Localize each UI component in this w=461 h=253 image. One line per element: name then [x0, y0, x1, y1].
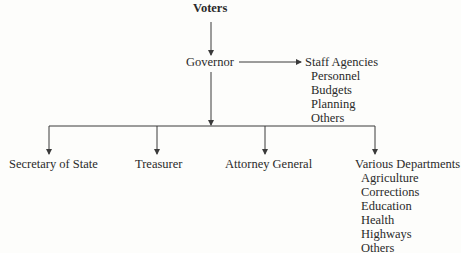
node-various-departments: Various Departments Agriculture Correcti…: [355, 157, 460, 253]
department-item: Agriculture: [355, 171, 460, 185]
attorney-general-label: Attorney General: [225, 157, 312, 171]
department-item: Education: [355, 199, 460, 213]
staff-agencies-label: Staff Agencies: [305, 55, 378, 69]
node-attorney-general: Attorney General: [225, 157, 312, 171]
node-secretary-of-state: Secretary of State: [9, 157, 98, 171]
staff-item: Personnel: [305, 69, 378, 83]
staff-item: Planning: [305, 97, 378, 111]
node-treasurer: Treasurer: [135, 157, 182, 171]
node-staff-agencies: Staff Agencies Personnel Budgets Plannin…: [305, 55, 378, 125]
treasurer-label: Treasurer: [135, 157, 182, 171]
department-item: Health: [355, 213, 460, 227]
department-item: Corrections: [355, 185, 460, 199]
node-voters: Voters: [193, 1, 227, 15]
governor-label: Governor: [186, 55, 234, 69]
voters-label: Voters: [193, 1, 227, 15]
secretary-label: Secretary of State: [9, 157, 98, 171]
department-item: Others: [355, 241, 460, 253]
node-governor: Governor: [186, 55, 234, 69]
staff-item: Budgets: [305, 83, 378, 97]
departments-label: Various Departments: [355, 157, 460, 171]
org-chart: Voters Governor Staff Agencies Personnel…: [0, 0, 461, 253]
department-item: Highways: [355, 227, 460, 241]
staff-item: Others: [305, 111, 378, 125]
